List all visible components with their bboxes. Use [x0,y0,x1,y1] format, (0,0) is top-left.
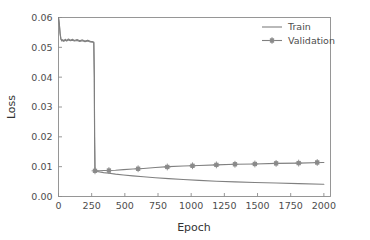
x-tick-label-250: 250 [83,200,101,211]
series-marker-validation [251,161,258,168]
series-marker-validation [135,165,142,172]
y-axis-title: Loss [5,95,18,119]
x-tick-label-0: 0 [55,200,61,211]
y-tick-label-0.04: 0.04 [31,72,52,83]
plot-canvas: 025050075010001250150017502000 0.000.010… [0,0,370,240]
series-marker-validation [232,161,239,168]
x-tick-label-1000: 1000 [179,200,203,211]
legend-label-train: Train [287,21,311,32]
x-axis-title: Epoch [177,221,211,234]
series-marker-validation [92,167,99,174]
x-tick-label-1750: 1750 [279,200,303,211]
chart-legend[interactable]: TrainValidation [262,21,335,46]
x-tick-label-1250: 1250 [212,200,236,211]
y-axis-tick-labels: 0.000.010.020.030.040.050.06 [31,12,52,202]
series-marker-validation [164,164,171,171]
y-axis-ticks [59,18,63,197]
y-tick-label-0.03: 0.03 [31,101,52,112]
x-tick-label-750: 750 [149,200,167,211]
data-series-group [59,18,324,185]
x-axis-ticks [59,193,324,197]
y-tick-label-0.01: 0.01 [31,161,52,172]
series-marker-validation [295,160,302,167]
legend-label-validation: Validation [288,35,335,46]
series-marker-validation [273,160,280,167]
series-line-validation [59,18,324,171]
x-tick-label-1500: 1500 [245,200,269,211]
series-marker-validation [213,161,220,168]
chart-figure: 025050075010001250150017502000 0.000.010… [0,0,370,240]
y-tick-label-0.02: 0.02 [31,131,52,142]
legend-marker-validation [269,37,276,44]
y-tick-label-0.06: 0.06 [31,12,52,23]
x-tick-label-2000: 2000 [312,200,336,211]
x-axis-tick-labels: 025050075010001250150017502000 [55,200,335,211]
series-marker-validation [314,159,321,166]
series-marker-validation [189,162,196,169]
series-line-train [59,18,324,185]
y-tick-label-0.05: 0.05 [31,42,52,53]
x-tick-label-500: 500 [116,200,134,211]
y-tick-label-0.00: 0.00 [31,191,52,202]
